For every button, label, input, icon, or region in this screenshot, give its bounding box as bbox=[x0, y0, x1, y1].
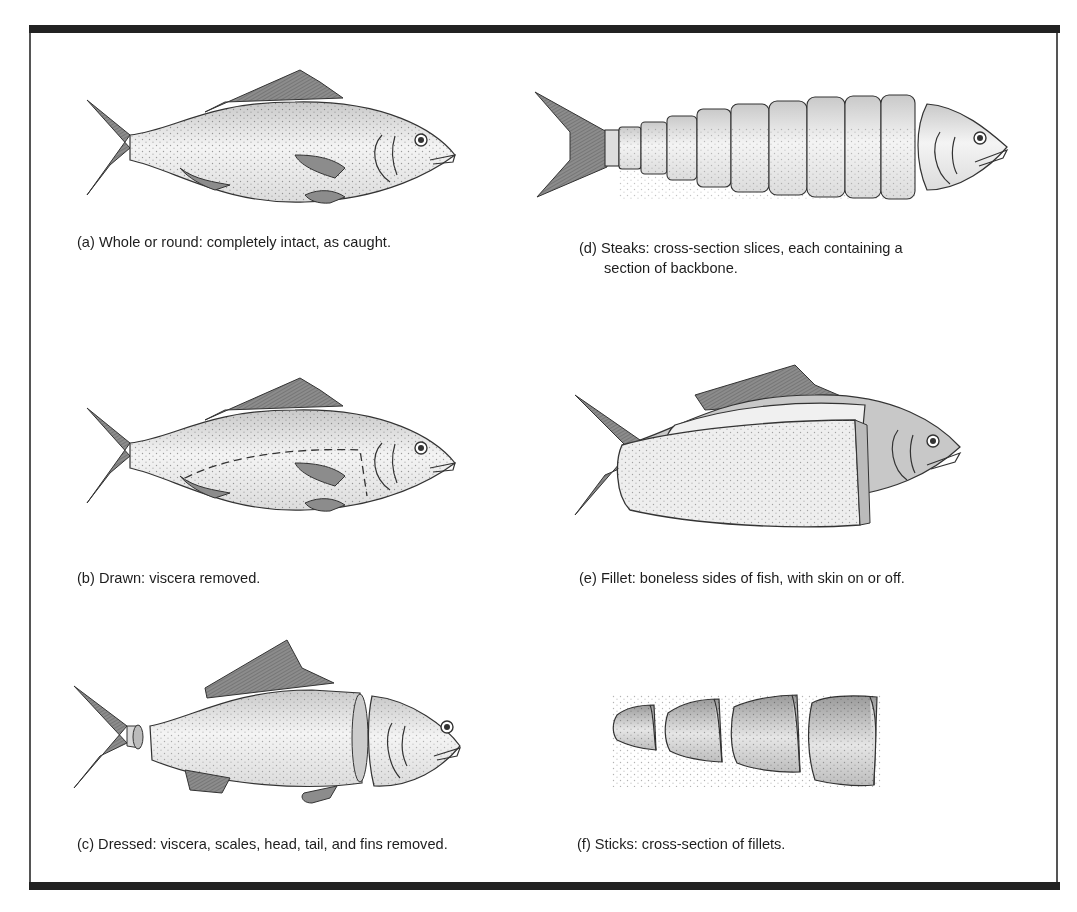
frame-top-bar bbox=[29, 25, 1060, 33]
caption-e-label: (e) bbox=[579, 568, 597, 588]
caption-b-label: (b) bbox=[77, 568, 95, 588]
caption-a-label: (a) bbox=[77, 232, 95, 252]
caption-f-label: (f) bbox=[577, 834, 591, 854]
drawn-fish-illustration bbox=[85, 368, 485, 518]
caption-d: (d) Steaks: cross-section slices, each c… bbox=[579, 238, 903, 278]
caption-d-text-line2: section of backbone. bbox=[579, 258, 903, 278]
caption-f: (f) Sticks: cross-section of fillets. bbox=[577, 834, 785, 854]
fillet-illustration bbox=[575, 365, 975, 525]
caption-b-text: Drawn: viscera removed. bbox=[99, 570, 260, 586]
steaks-illustration bbox=[535, 92, 1015, 212]
sticks-illustration bbox=[612, 695, 892, 805]
caption-c: (c) Dressed: viscera, scales, head, tail… bbox=[77, 834, 448, 854]
dressed-fish-illustration bbox=[72, 638, 492, 808]
whole-fish-illustration bbox=[85, 60, 485, 210]
caption-d-text: Steaks: cross-section slices, each conta… bbox=[601, 240, 903, 256]
caption-a-text: Whole or round: completely intact, as ca… bbox=[99, 234, 391, 250]
caption-a: (a) Whole or round: completely intact, a… bbox=[77, 232, 391, 252]
caption-c-text: Dressed: viscera, scales, head, tail, an… bbox=[98, 836, 448, 852]
frame-bottom-bar bbox=[29, 882, 1060, 890]
caption-f-text: Sticks: cross-section of fillets. bbox=[595, 836, 786, 852]
caption-c-label: (c) bbox=[77, 834, 94, 854]
caption-d-label: (d) bbox=[579, 238, 597, 258]
caption-e-text: Fillet: boneless sides of fish, with ski… bbox=[601, 570, 905, 586]
caption-b: (b) Drawn: viscera removed. bbox=[77, 568, 260, 588]
caption-e: (e) Fillet: boneless sides of fish, with… bbox=[579, 568, 905, 588]
